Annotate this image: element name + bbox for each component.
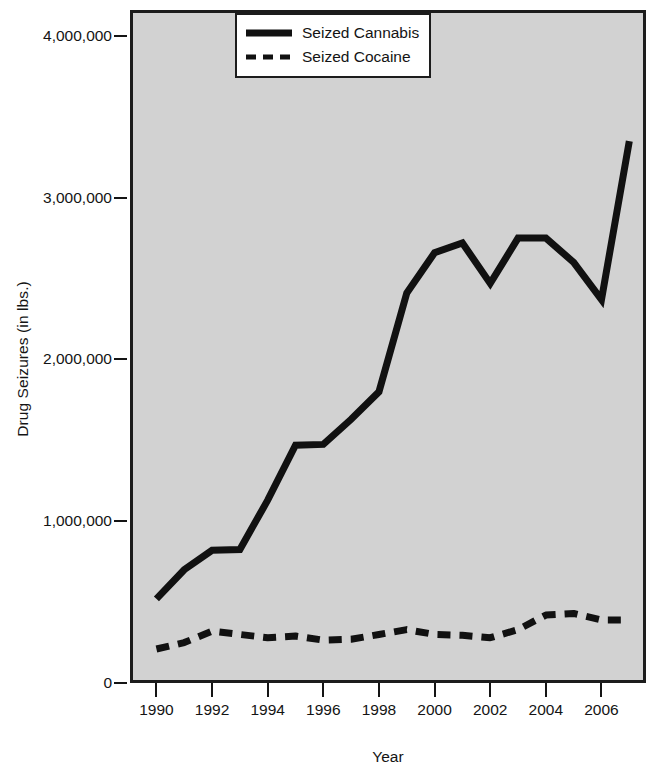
y-tick-mark xyxy=(114,35,127,37)
x-tick-label: 2000 xyxy=(417,701,451,719)
series-line-seized-cocaine xyxy=(156,613,629,649)
y-tick-label: 2,000,000 xyxy=(0,350,112,368)
x-tick-label: 2002 xyxy=(473,701,507,719)
y-tick-label: 0 xyxy=(0,674,112,692)
plot-series-svg xyxy=(130,10,646,683)
x-tick-label: 1998 xyxy=(362,701,396,719)
legend-swatch-dashed-line xyxy=(245,50,293,64)
y-tick-mark xyxy=(114,197,127,199)
y-tick-mark xyxy=(114,682,127,684)
line-chart-figure: Drug Seizures (in lbs.) 01,000,0002,000,… xyxy=(0,0,652,778)
legend-item-seized-cannabis: Seized Cannabis xyxy=(245,21,419,45)
y-tick-label: 1,000,000 xyxy=(0,512,112,530)
x-tick-mark xyxy=(545,683,547,697)
x-tick-label: 2004 xyxy=(529,701,563,719)
legend-label-seized-cannabis: Seized Cannabis xyxy=(302,24,419,42)
x-tick-mark xyxy=(434,683,436,697)
x-tick-mark xyxy=(211,683,213,697)
x-tick-mark xyxy=(600,683,602,697)
x-tick-mark xyxy=(378,683,380,697)
x-tick-label: 1990 xyxy=(139,701,173,719)
legend-label-seized-cocaine: Seized Cocaine xyxy=(302,48,411,66)
x-tick-label: 2006 xyxy=(584,701,618,719)
legend-item-seized-cocaine: Seized Cocaine xyxy=(245,45,419,69)
y-tick-mark xyxy=(114,358,127,360)
x-tick-mark xyxy=(267,683,269,697)
y-tick-mark xyxy=(114,520,127,522)
series-line-seized-cannabis xyxy=(156,141,629,599)
x-axis-title: Year xyxy=(130,748,646,766)
x-tick-label: 1994 xyxy=(250,701,284,719)
x-tick-mark xyxy=(489,683,491,697)
x-tick-mark xyxy=(155,683,157,697)
dashed-line-icon xyxy=(245,50,293,64)
x-tick-label: 1992 xyxy=(195,701,229,719)
legend-swatch-solid-line xyxy=(245,26,293,40)
y-tick-label: 4,000,000 xyxy=(0,27,112,45)
x-tick-label: 1996 xyxy=(306,701,340,719)
y-tick-label: 3,000,000 xyxy=(0,189,112,207)
plot-area xyxy=(130,10,646,683)
chart-legend: Seized Cannabis Seized Cocaine xyxy=(235,13,431,78)
x-tick-mark xyxy=(322,683,324,697)
solid-line-icon xyxy=(245,26,293,40)
